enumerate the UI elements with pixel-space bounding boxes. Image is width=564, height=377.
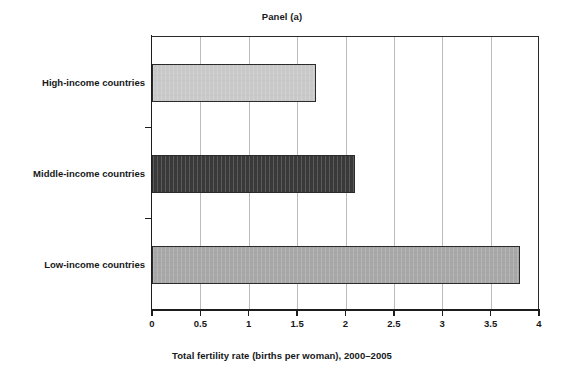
y-axis-spine [151, 35, 153, 312]
x-tick-label-3: 3 [440, 318, 445, 329]
bar-texture [153, 156, 354, 192]
bar-middle-income-countries [152, 155, 355, 193]
x-tick-mark-0-5 [200, 309, 201, 316]
x-tick-label-3-5: 3.5 [484, 318, 497, 329]
x-axis-title: Total fertility rate (births per woman),… [0, 350, 564, 361]
x-tick-mark-0 [151, 309, 152, 316]
x-tick-mark-1-5 [296, 309, 297, 316]
chart-figure: Panel (a) 00.511.522.533.54 High-income … [0, 0, 564, 377]
bar-low-income-countries [152, 246, 520, 284]
x-tick-label-1: 1 [246, 318, 251, 329]
x-tick-mark-1 [248, 309, 249, 316]
x-tick-mark-4 [538, 309, 539, 316]
plot-area [152, 36, 539, 310]
y-tick-mark-2 [145, 218, 152, 219]
x-tick-label-2: 2 [343, 318, 348, 329]
bar-high-income-countries [152, 64, 316, 102]
bar-texture [153, 247, 519, 283]
y-tick-mark-1 [145, 127, 152, 128]
x-tick-label-2-5: 2.5 [387, 318, 400, 329]
y-category-label-low-income-countries: Low-income countries [44, 259, 145, 270]
x-tick-mark-3 [442, 309, 443, 316]
x-tick-label-0-5: 0.5 [194, 318, 207, 329]
x-tick-mark-2-5 [393, 309, 394, 316]
x-tick-label-1-5: 1.5 [291, 318, 304, 329]
x-tick-mark-3-5 [490, 309, 491, 316]
y-category-label-middle-income-countries: Middle-income countries [33, 168, 145, 179]
chart-title: Panel (a) [0, 11, 564, 22]
x-tick-label-4: 4 [536, 318, 541, 329]
x-tick-mark-2 [345, 309, 346, 316]
bar-texture [153, 65, 315, 101]
x-tick-label-0: 0 [149, 318, 154, 329]
y-category-label-high-income-countries: High-income countries [42, 76, 145, 87]
